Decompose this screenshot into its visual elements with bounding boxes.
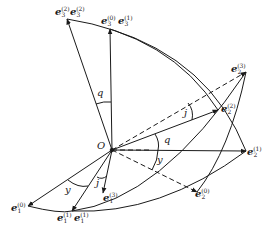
- origin-point: [110, 148, 114, 152]
- label-e2-1: e2(1): [247, 146, 262, 158]
- origin-label: O: [97, 141, 105, 151]
- vec-e3-0: [110, 29, 112, 150]
- arc-top-right: [110, 29, 246, 151]
- angle-j-bottom: j: [96, 178, 99, 188]
- angle-q-right: q: [164, 135, 170, 145]
- angle-arc-q-right: [155, 134, 159, 150]
- label-e2-0: e2(0): [195, 188, 210, 200]
- angle-y-right: y: [157, 155, 163, 165]
- label-e2-3: e2(3): [231, 63, 246, 75]
- vec-e3-2: [67, 19, 112, 150]
- angle-q-top: q: [97, 88, 103, 98]
- label-e3-2: e3(2): [55, 6, 70, 18]
- label-e2-2: e2(2): [221, 103, 236, 115]
- label-e1-3: e1(3): [103, 192, 118, 204]
- vec-e2-0-dashed: [112, 150, 197, 192]
- label-e3-1: e3(1): [118, 15, 133, 27]
- label-e1-1: e1(1): [57, 212, 72, 224]
- angle-j-right: j: [184, 108, 187, 118]
- arc-right-outer: [197, 72, 246, 192]
- arc-top: [67, 19, 218, 110]
- label-e3-2b: e3(2): [70, 6, 85, 18]
- label-e3-0: e3(0): [101, 15, 116, 27]
- angle-arc-q-top: [96, 102, 111, 104]
- angle-arc-y-bottom: [68, 180, 88, 186]
- label-e1-1b: e1(1): [74, 212, 89, 224]
- rotation-diagram: O e3(2) e3(2) e3(0) e3(1) e2(3) e2(2) e2…: [0, 0, 266, 226]
- angle-y-bottom: y: [65, 185, 71, 195]
- label-e1-0: e1(0): [11, 202, 26, 214]
- arc-bottom: [28, 72, 246, 212]
